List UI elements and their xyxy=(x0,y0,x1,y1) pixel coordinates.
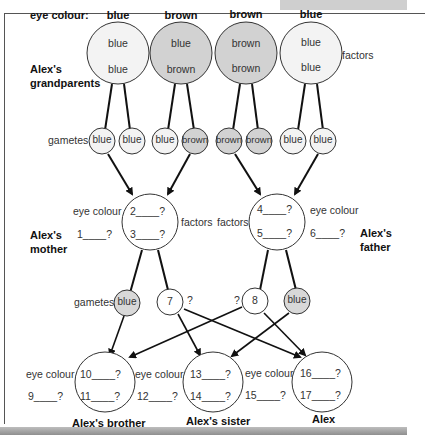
alex-eye-colour-label: eye colour xyxy=(245,367,293,379)
father-eye-colour-label: eye colour xyxy=(310,204,358,216)
grandparent-gamete-lines xyxy=(105,84,323,130)
alex-eye-colour-blank: 15____? xyxy=(245,389,286,401)
mother-eye-colour-blank: 1____? xyxy=(77,228,112,240)
sister-name: Alex's sister xyxy=(186,415,250,427)
gamete-3-label: blue xyxy=(150,134,180,145)
father-gamete-blue-label: blue xyxy=(282,294,312,305)
mother-gamete-7-question: ? xyxy=(187,294,193,306)
gp1-factor-bottom: blue xyxy=(98,63,138,75)
alex-factor-bottom: 17____? xyxy=(300,389,341,401)
eye-colour-header: eye colour: xyxy=(30,9,89,21)
gp2-factor-bottom: brown xyxy=(161,63,201,75)
father-eye-colour-blank: 6____? xyxy=(310,227,345,239)
gp4-factor-bottom: blue xyxy=(291,61,331,73)
father-factor-top: 4____? xyxy=(257,203,292,215)
brother-eye-colour-label: eye colour xyxy=(26,368,74,380)
gp3-factor-bottom: brown xyxy=(226,62,266,74)
gametes-label-1: gametes xyxy=(48,134,88,146)
gamete-6-label: brown xyxy=(244,134,274,145)
father-label-line2: father xyxy=(360,241,391,253)
brother-circle xyxy=(75,352,135,412)
gametes-label-2: gametes xyxy=(74,296,114,308)
alex-name: Alex xyxy=(312,413,335,425)
father-factors-label: factors xyxy=(217,216,249,228)
gamete-7-label: blue xyxy=(278,134,308,145)
father-gamete-8-question: ? xyxy=(234,294,240,306)
gamete-child-arrows xyxy=(110,307,305,357)
grandparent-circle-3 xyxy=(215,22,277,84)
mother-circle xyxy=(122,194,178,250)
gamete-8-label: blue xyxy=(308,134,338,145)
alex-factor-top: 16____? xyxy=(300,367,341,379)
gp4-factor-top: blue xyxy=(291,36,331,48)
gamete-5-label: brown xyxy=(214,134,244,145)
sister-eye-colour-blank: 12____? xyxy=(137,390,178,402)
mother-eye-colour-label: eye colour xyxy=(73,205,121,217)
mother-label-line2: mother xyxy=(30,243,67,255)
sister-eye-colour-label: eye colour xyxy=(135,368,183,380)
father-label-line1: Alex's xyxy=(360,227,392,239)
brother-factor-top: 10____? xyxy=(80,368,121,380)
gp4-eye-colour: blue xyxy=(293,8,329,20)
gp1-eye-colour: blue xyxy=(100,9,136,21)
mother-gamete-blue-label: blue xyxy=(112,296,142,307)
gp3-eye-colour: brown xyxy=(225,8,267,20)
brother-name: Alex's brother xyxy=(72,417,146,429)
grandparent-circle-4 xyxy=(280,22,342,84)
brother-eye-colour-blank: 9____? xyxy=(28,390,63,402)
mother-gamete-7-label: 7 xyxy=(155,295,185,307)
gamete-2-label: blue xyxy=(117,134,147,145)
father-factor-bottom: 5____? xyxy=(257,227,292,239)
gamete-1-label: blue xyxy=(87,134,117,145)
mother-label-line1: Alex's xyxy=(30,229,62,241)
grandparents-label-line1: Alex's xyxy=(30,63,62,75)
brother-factor-bottom: 11____? xyxy=(80,390,120,402)
gp3-factor-top: brown xyxy=(226,37,266,49)
parent-gamete-lines xyxy=(130,250,296,293)
gp1-factor-top: blue xyxy=(98,37,138,49)
mother-factor-bottom: 3____? xyxy=(130,228,165,240)
grandparents-label-line2: grandparents xyxy=(30,77,100,89)
mother-factor-top: 2____? xyxy=(130,205,165,217)
gamete-parent-arrows xyxy=(108,154,318,194)
gp2-factor-top: blue xyxy=(161,37,201,49)
mother-factors-label: factors xyxy=(181,216,213,228)
grandparents-factors-label: factors xyxy=(342,49,374,61)
sister-factor-bottom: 14____? xyxy=(190,390,231,402)
sister-circle xyxy=(183,352,243,412)
gp2-eye-colour: brown xyxy=(160,9,202,21)
gamete-4-label: brown xyxy=(180,134,210,145)
father-gamete-8-label: 8 xyxy=(240,294,270,306)
alex-circle xyxy=(292,352,352,412)
sister-factor-top: 13____? xyxy=(190,368,231,380)
